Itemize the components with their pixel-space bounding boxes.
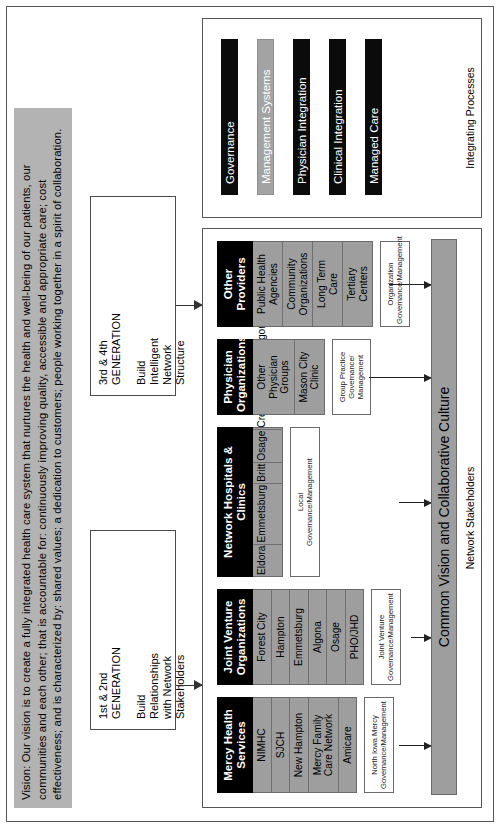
stakeholder-group-network-hospitals-clinics: Network Hospitals & Clinics Eldora Emmet… [217,427,320,577]
list-item: Amicare [339,698,357,792]
generation-1-title: 1st & 2nd GENERATION [97,541,123,719]
list-item: Long Term Care [313,242,343,326]
group-member-list: Eldora Emmetsburg Britt Osage Cresco Bel… [253,427,283,577]
list-item: Emmetsburg [290,590,309,684]
group-member-list: NIMHC SJCH New Hampton Mercy Family Care… [253,697,357,793]
arrow-down-icon-1 [176,685,202,686]
process-bar-governance: Governance [221,39,238,195]
list-item: Osage [327,590,346,684]
list-item: New Hampton [290,698,309,792]
list-item: Community Organizations [283,242,313,326]
list-item: Britt [253,462,282,483]
list-item: Public Health Agencies [253,242,283,326]
common-vision-band: Common Vision and Collaborative Culture [431,239,457,795]
generation-2-title: 3rd & 4th GENERATION [97,207,123,385]
group-member-list: Forest City Hampton Emmetsburg Algona Os… [253,589,364,685]
list-item: Mason City Clinic [295,340,324,414]
group-member-list: Other Physician Groups Mason City Clinic [253,339,325,415]
arrow-down-icon-2 [176,305,202,306]
group-header: Other Providers [217,241,253,327]
list-item: NIMHC [253,698,272,792]
arrow-down-icon-group-5 [389,284,431,285]
network-stakeholders-label: Network Stakeholders [464,229,476,807]
generation-2-subtitle: Build Intelligent Network Structure [135,207,187,385]
list-item: Algona [309,590,328,684]
arrow-down-icon-group-2 [411,637,431,638]
generation-box-2: 3rd & 4th GENERATION Build Intelligent N… [90,196,176,396]
group-header: Mercy Health Services [217,697,253,793]
group-header: Joint Venture Organizations [217,589,253,685]
stakeholder-group-other-providers: Other Providers Public Health Agencies C… [217,241,410,327]
generation-1-subtitle: Build Relationships with Network Stakeho… [135,541,187,719]
governance-label: Joint Venture Governance/Management [371,589,401,685]
list-item: Tertiary Centers [343,242,372,326]
arrow-down-icon-group-3 [399,502,431,503]
integrating-processes-panel: Integrating Processes Governance Managem… [202,18,482,218]
generation-box-1: 1st & 2nd GENERATION Build Relationships… [90,530,176,730]
stakeholder-group-mercy-health-services: Mercy Health Services NIMHC SJCH New Ham… [217,697,394,793]
list-item: PHO/JHD [346,590,364,684]
process-bar-physician-integration: Physician Integration [293,39,310,195]
list-item: Forest City [253,590,272,684]
group-member-list: Public Health Agencies Community Organiz… [253,241,373,327]
process-bar-managed-care: Managed Care [365,39,382,195]
network-stakeholders-panel: Network Stakeholders Mercy Health Servic… [202,228,482,808]
list-item: Emmetsburg [253,483,282,544]
group-header: Network Hospitals & Clinics [217,427,253,577]
governance-label: North Iowa Mercy Governance/Management [364,697,394,793]
stakeholder-group-physician-organizations: Physician Organizations Other Physician … [217,339,371,415]
governance-label: Local Governance/Management [290,427,320,577]
list-item: Other Physician Groups [253,340,295,414]
list-item: SJCH [272,698,291,792]
list-item: Hampton [272,590,291,684]
vision-statement: Vision: Our vision is to create a fully … [14,108,72,808]
list-item: Mercy Family Care Network [309,698,339,792]
arrow-down-icon-group-4 [369,377,431,378]
arrow-down-icon-group-1 [399,745,431,746]
stakeholder-group-joint-venture-organizations: Joint Venture Organizations Forest City … [217,589,401,685]
list-item: Eldora [253,544,282,576]
process-bar-management-systems: Management Systems [257,39,274,195]
group-header: Physician Organizations [217,339,253,415]
diagram-stage: Vision: Our vision is to create a fully … [0,0,500,826]
list-item: Osage [253,429,282,462]
governance-label: Group Practice Governance/ Management [332,339,371,415]
process-bar-clinical-integration: Clinical Integration [329,39,346,195]
integrating-processes-label: Integrating Processes [464,19,476,217]
